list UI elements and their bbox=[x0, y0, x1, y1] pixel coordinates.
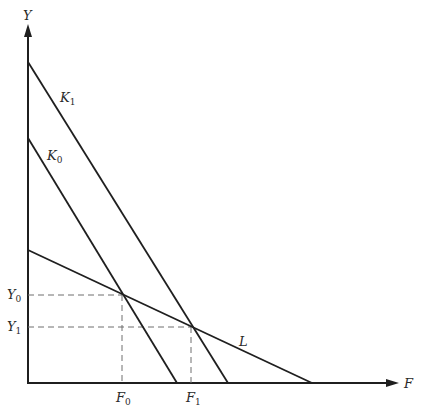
l-line bbox=[28, 250, 312, 383]
x-axis-label: F bbox=[403, 376, 414, 391]
x-axis-arrow-icon bbox=[386, 379, 399, 387]
y-axis-arrow-icon bbox=[24, 24, 32, 37]
k0-label: K0 bbox=[46, 148, 63, 165]
k1-line bbox=[28, 62, 228, 383]
y-axis-label: Y bbox=[23, 8, 33, 23]
diagram-canvas: Y F K1 K0 L Y0 Y1 F0 F1 bbox=[0, 0, 422, 412]
l-label: L bbox=[238, 334, 248, 349]
k1-label: K1 bbox=[59, 90, 75, 107]
f1-label: F1 bbox=[185, 390, 201, 407]
y0-label: Y0 bbox=[7, 287, 22, 304]
y1-label: Y1 bbox=[7, 319, 21, 336]
f0-label: F0 bbox=[115, 390, 131, 407]
